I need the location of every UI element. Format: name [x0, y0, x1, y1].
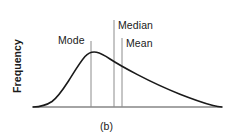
median-label: Median — [118, 19, 153, 31]
frequency-curve — [33, 52, 222, 107]
figure-caption-text: (b) — [100, 120, 113, 132]
distribution-plot — [0, 0, 225, 139]
mean-label: Mean — [126, 37, 153, 49]
figure-caption: (b) — [0, 120, 225, 132]
skewed-distribution-figure: Frequency Mode Median Mean (b) — [0, 0, 225, 139]
mode-label: Mode — [58, 34, 85, 46]
y-axis-label: Frequency — [11, 39, 23, 93]
